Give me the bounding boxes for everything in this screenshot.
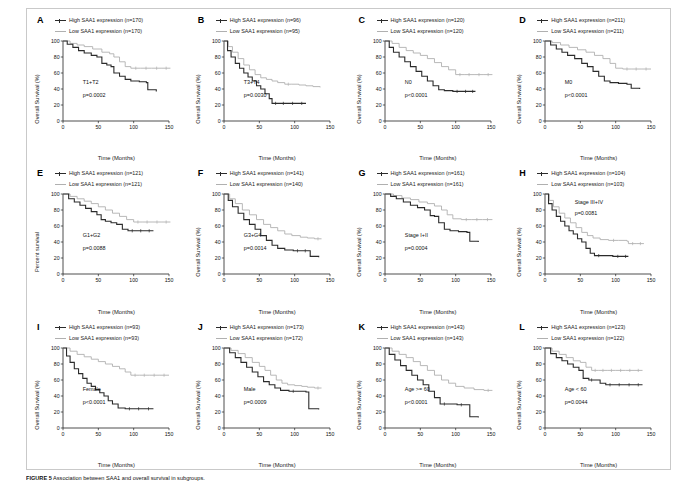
svg-text:0: 0 (378, 425, 381, 431)
svg-text:20: 20 (375, 409, 381, 415)
plot-area: Overall Survival (%)02040608010005010015… (188, 188, 349, 315)
legend-label-low: Low SAA1 expression (n=121) (69, 181, 142, 188)
subgroup-label: Stage I+II (404, 233, 427, 239)
svg-text:80: 80 (375, 54, 381, 60)
x-axis-title: Time (Months) (531, 309, 666, 315)
svg-text:60: 60 (54, 70, 60, 76)
svg-text:40: 40 (375, 393, 381, 399)
legend-label-high: High SAA1 expression (n=211) (551, 17, 625, 24)
survival-curve-svg: 020406080100050100150G1+G2p=0.0088 (41, 188, 175, 292)
legend-line-low-icon (55, 31, 66, 32)
plot-area: Overall Survival (%)02040608010005010015… (188, 342, 349, 469)
legend-line-high-icon (216, 173, 227, 174)
panel-letter-e: E (37, 168, 43, 178)
svg-text:100: 100 (612, 431, 621, 437)
svg-text:0: 0 (222, 277, 225, 283)
svg-text:50: 50 (256, 277, 262, 283)
svg-text:100: 100 (372, 191, 381, 197)
svg-text:100: 100 (290, 277, 299, 283)
panel-letter-f: F (198, 168, 204, 178)
x-axis-title: Time (Months) (210, 155, 345, 161)
svg-text:50: 50 (95, 431, 101, 437)
svg-text:80: 80 (215, 361, 221, 367)
svg-text:150: 150 (647, 277, 656, 283)
legend: High SAA1 expression (n=123)Low SAA1 exp… (537, 322, 662, 344)
legend-item-high: High SAA1 expression (n=161) (377, 168, 502, 179)
legend-label-high: High SAA1 expression (n=173) (230, 324, 304, 331)
svg-text:50: 50 (578, 431, 584, 437)
legend-label-low: Low SAA1 expression (n=140) (230, 181, 303, 188)
panel-letter-h: H (519, 168, 526, 178)
svg-text:100: 100 (612, 277, 621, 283)
pvalue-label: p=0.0044 (565, 399, 588, 405)
legend-line-high-icon (55, 327, 66, 328)
svg-text:100: 100 (290, 431, 299, 437)
svg-text:0: 0 (544, 431, 547, 437)
svg-text:0: 0 (539, 271, 542, 277)
svg-text:50: 50 (578, 124, 584, 130)
svg-text:50: 50 (256, 431, 262, 437)
svg-text:150: 150 (325, 124, 334, 130)
legend-line-high-icon (216, 20, 227, 21)
legend-line-high-icon (55, 173, 66, 174)
legend-line-high-icon (377, 327, 388, 328)
svg-text:100: 100 (212, 345, 221, 351)
svg-text:20: 20 (375, 102, 381, 108)
legend-label-low: Low SAA1 expression (n=93) (69, 335, 139, 342)
svg-text:20: 20 (215, 409, 221, 415)
svg-text:80: 80 (375, 361, 381, 367)
x-axis-title: Time (Months) (371, 155, 506, 161)
plot-area: Overall Survival (%)02040608010005010015… (509, 342, 670, 469)
legend-label-low: Low SAA1 expression (n=95) (230, 28, 300, 35)
svg-text:0: 0 (544, 124, 547, 130)
legend-line-low-icon (377, 338, 388, 339)
svg-text:20: 20 (54, 409, 60, 415)
legend-line-low-icon (537, 31, 548, 32)
legend-line-low-icon (216, 338, 227, 339)
svg-text:50: 50 (417, 277, 423, 283)
y-axis-title: Overall Survival (%) (516, 64, 522, 134)
svg-text:0: 0 (222, 431, 225, 437)
legend: High SAA1 expression (n=173)Low SAA1 exp… (216, 322, 341, 344)
legend-label-high: High SAA1 expression (n=104) (551, 170, 625, 177)
svg-text:0: 0 (383, 431, 386, 437)
svg-text:150: 150 (647, 124, 656, 130)
survival-curve-svg: 020406080100050100150Age >= 60p<0.0001 (363, 342, 497, 446)
y-axis-title: Overall Survival (%) (516, 217, 522, 287)
svg-text:100: 100 (51, 191, 60, 197)
survival-curve-svg: 020406080100050100150G3+G4p=0.0014 (202, 188, 336, 292)
y-axis-title: Overall Survival (%) (356, 64, 362, 134)
legend-item-high: High SAA1 expression (n=211) (537, 15, 662, 26)
svg-text:100: 100 (533, 38, 542, 44)
svg-text:0: 0 (57, 271, 60, 277)
legend: High SAA1 expression (n=104)Low SAA1 exp… (537, 168, 662, 190)
legend-label-high: High SAA1 expression (n=96) (230, 17, 301, 24)
panel-i: IHigh SAA1 expression (n=93)Low SAA1 exp… (27, 316, 188, 469)
legend-item-high: High SAA1 expression (n=120) (377, 15, 502, 26)
pvalue-label: p=0.0030 (244, 92, 267, 98)
panel-c: CHigh SAA1 expression (n=120)Low SAA1 ex… (349, 9, 510, 162)
pvalue-label: p<0.0001 (404, 92, 427, 98)
legend-label-low: Low SAA1 expression (n=120) (391, 28, 464, 35)
legend: High SAA1 expression (n=170)Low SAA1 exp… (55, 15, 180, 37)
legend-item-high: High SAA1 expression (n=123) (537, 322, 662, 333)
svg-text:100: 100 (212, 38, 221, 44)
legend: High SAA1 expression (n=120)Low SAA1 exp… (377, 15, 502, 37)
x-axis-title: Time (Months) (49, 155, 184, 161)
legend-label-high: High SAA1 expression (n=141) (230, 170, 304, 177)
svg-text:150: 150 (486, 124, 495, 130)
legend-line-low-icon (377, 184, 388, 185)
y-axis-title: Percent survival (34, 217, 40, 287)
svg-text:40: 40 (54, 86, 60, 92)
legend-label-low: Low SAA1 expression (n=103) (551, 181, 624, 188)
svg-text:100: 100 (451, 124, 460, 130)
svg-text:40: 40 (536, 86, 542, 92)
panel-f: FHigh SAA1 expression (n=141)Low SAA1 ex… (188, 162, 349, 315)
svg-text:50: 50 (578, 277, 584, 283)
subgroup-label: Age < 60 (565, 386, 587, 392)
legend: High SAA1 expression (n=93)Low SAA1 expr… (55, 322, 180, 344)
panel-letter-c: C (359, 15, 366, 25)
x-axis-title: Time (Months) (49, 309, 184, 315)
pvalue-label: p=0.0014 (244, 245, 267, 251)
subgroup-label: Male (244, 386, 256, 392)
